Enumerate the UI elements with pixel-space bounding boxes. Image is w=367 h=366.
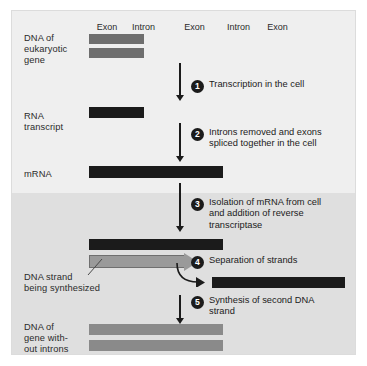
separated-dna-strand (212, 277, 345, 288)
step-3-text: Isolation of mRNA from cell and addition… (209, 197, 321, 231)
flow-arrow-1-line (179, 63, 181, 96)
label-mrna: mRNA (24, 169, 84, 180)
mrna-strand (89, 166, 223, 178)
diagram-figure: Exon Intron Exon Intron Exon DNA of euka… (11, 10, 356, 355)
dna-gene-strand-top (89, 34, 296, 44)
step-2: 2 Introns removed and exons spliced toge… (191, 127, 356, 150)
segment-label-intron-2: Intron (220, 22, 257, 32)
product-dna-strand-bottom (89, 340, 223, 351)
dna-segment-exon (89, 34, 131, 44)
step-4-text: Separation of strands (209, 255, 297, 266)
step-2-number: 2 (191, 128, 204, 141)
flow-arrow-5-line (179, 295, 181, 319)
flow-arrow-3-head (176, 226, 184, 232)
step-3-number: 3 (191, 198, 204, 211)
step-5-number: 5 (191, 296, 204, 309)
step-1-text: Transcription in the cell (209, 79, 304, 90)
segment-label-exon-1: Exon (90, 22, 124, 32)
segment-label-exon-3: Exon (260, 22, 295, 32)
label-dna-strand-being-synthesized: DNA strand being synthesized (24, 272, 119, 294)
segment-label-intron-1: Intron (125, 22, 162, 32)
step-5: 5 Synthesis of second DNA strand (191, 295, 356, 318)
step-1: 1 Transcription in the cell (191, 79, 351, 93)
dna-segment-exon (89, 48, 131, 58)
segment-label-exon-2: Exon (167, 22, 222, 32)
label-rna-transcript: RNA transcript (24, 111, 94, 133)
rna-transcript-strand (89, 107, 296, 118)
product-dna-strand-top (89, 324, 223, 335)
dna-gene-strand-bottom (89, 48, 296, 58)
flow-arrow-3-line (179, 183, 181, 227)
flow-arrow-1-head (176, 95, 184, 101)
step-4: 4 Separation of strands (191, 255, 356, 269)
mrna-template-strand (89, 239, 223, 250)
step-5-text: Synthesis of second DNA strand (209, 295, 314, 318)
step-3: 3 Isolation of mRNA from cell and additi… (191, 197, 356, 231)
step-2-text: Introns removed and exons spliced togeth… (209, 127, 322, 150)
flow-arrow-4-curve (172, 263, 212, 287)
flow-arrow-2-line (179, 123, 181, 157)
flow-arrow-2-head (176, 156, 184, 162)
step-1-number: 1 (191, 80, 204, 93)
label-dna-eukaryotic-gene: DNA of eukaryotic gene (24, 33, 94, 67)
rna-segment-exon (89, 107, 131, 118)
